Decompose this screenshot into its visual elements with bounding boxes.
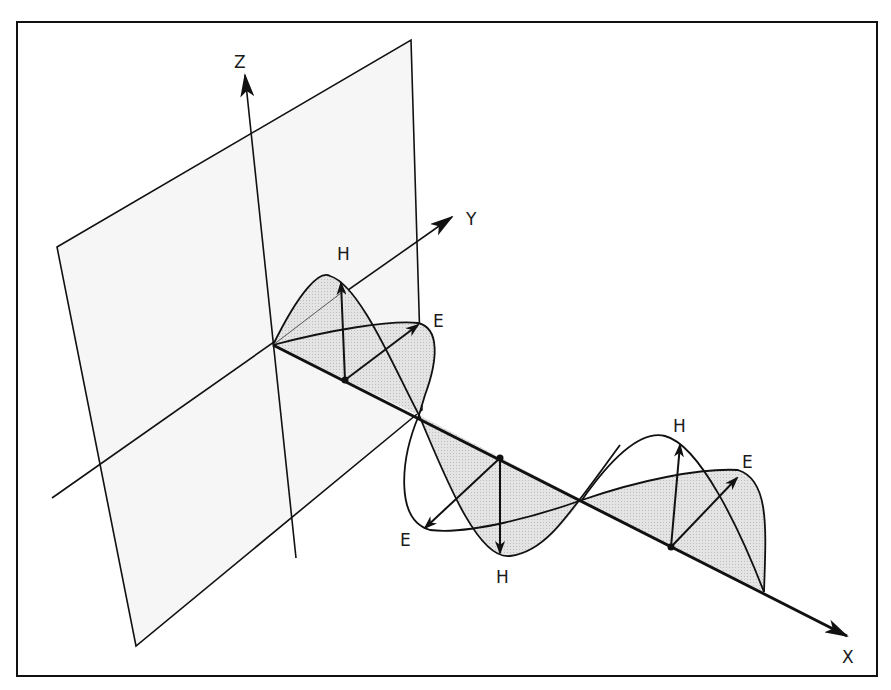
h-label-2: H — [496, 567, 509, 587]
e-label-1: E — [433, 311, 444, 331]
h-label-1: H — [337, 244, 350, 264]
y-axis-label: Y — [465, 209, 477, 229]
x-axis-label: X — [842, 647, 854, 667]
z-axis-label: Z — [234, 52, 246, 72]
x-axis-line — [273, 345, 847, 636]
e-label-2: E — [400, 530, 411, 550]
e-label-3: E — [742, 452, 753, 472]
h-label-3: H — [673, 416, 686, 436]
em-wave-diagram: Z Y X H E E H H E — [0, 0, 891, 690]
wave-lobe-2 — [404, 415, 620, 556]
